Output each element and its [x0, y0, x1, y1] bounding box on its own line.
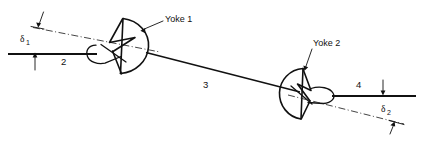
shaft-4-label: 4 — [356, 79, 361, 90]
joint2-outer-yoke-back — [301, 69, 303, 120]
intermediate-shaft-3-line — [146, 53, 300, 93]
input-reference-axis — [33, 28, 160, 53]
delta2-upper-arrowhead — [381, 90, 386, 95]
yoke2-leader-line — [305, 49, 312, 69]
delta1-upper-arrowhead — [36, 23, 41, 28]
figure-root: δ 1 2 Yoke 1 3 — [0, 0, 421, 149]
joint2-inner-yoke-cup — [308, 87, 334, 103]
delta2-subscript: 2 — [387, 109, 391, 116]
delta2-symbol: δ — [381, 104, 386, 114]
shaft-2-label: 2 — [61, 56, 66, 67]
shaft-3-label: 3 — [203, 79, 208, 90]
joint1-lower-arm — [113, 51, 122, 74]
delta1-subscript: 1 — [26, 39, 30, 46]
joint1-outer-yoke-bell — [121, 19, 149, 74]
universal-joint-1 — [87, 19, 149, 74]
delta2-lower-arrowhead — [390, 122, 395, 127]
driveline-diagram: δ 1 2 Yoke 1 3 — [0, 0, 421, 149]
yoke1-label: Yoke 1 — [165, 14, 192, 24]
universal-joint-2 — [279, 69, 333, 120]
yoke2-label: Yoke 2 — [313, 38, 340, 48]
output-axis-end-tick — [389, 121, 404, 125]
delta1-symbol: δ — [20, 34, 25, 44]
